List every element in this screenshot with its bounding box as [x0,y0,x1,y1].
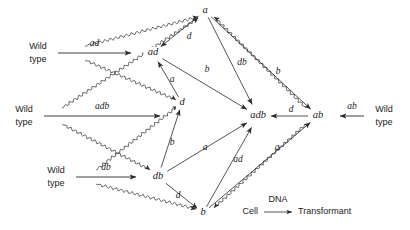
edge-label-db-adb: a [203,142,208,152]
legend-from-label: Cell [242,206,258,216]
wild-type-word1-src-adb: Wild [15,104,33,114]
edge-label-ab-adb: d [289,104,294,114]
wild-type-word2-src-db: type [47,178,64,188]
edge-a-to-ab [210,16,311,109]
wavy-dna-src-ad-out-down [85,60,176,100]
legend-arrow-label: DNA [268,194,287,204]
source-label-group: adWildtypeadbWildtypedbWildtypeabWildtyp… [15,38,393,188]
node-a: a [202,4,207,15]
wavy-dna-src-ad-out-up [85,17,198,46]
edge-b-to-adb [206,127,251,207]
edge-db-to-b [166,183,198,208]
wild-type-word1-src-ab: Wild [375,104,393,114]
edge-label-a-ad: d [187,31,192,41]
wild-type-word2-src-adb: type [15,117,32,127]
node-db: db [153,170,164,181]
source-donor-label-src-ad: ad [90,38,100,48]
wild-type-word2-src-ad: type [29,54,46,64]
wild-type-word1-src-db: Wild [47,165,65,175]
wavy-dna-src-adb-out-up [62,18,198,108]
node-d: d [179,96,185,107]
legend-to-label: Transformant [298,206,352,216]
edge-label-a-ab: b [276,66,281,76]
node-adb: adb [250,109,266,120]
edge-a-to-ad [161,15,200,46]
edge-label-db-b: d [176,190,181,200]
legend: Cell DNA Transformant [242,194,351,216]
edge-label-a-adb: db [237,57,247,67]
source-donor-label-src-adb: adb [95,101,110,111]
edge-label-db-d: b [170,137,175,147]
node-ad: ad [148,46,159,57]
source-donor-label-src-ab: ab [347,101,357,111]
wavy-dna-src-db-out-down [96,184,196,209]
source-donor-label-src-db: db [101,162,111,172]
wavy-dna-ab-wavy-down [214,124,306,208]
edge-d-to-ad [158,62,178,97]
edge-label-b-adb: ad [233,154,243,164]
diagram-canvas: ddbbbabadadad aaddadbdbbab adWildtypeadb… [0,0,410,230]
edge-label-b-ab: a [275,142,280,152]
wild-type-word2-src-ab: type [375,117,392,127]
edge-label-ad-adb: b [205,64,210,74]
node-ab: ab [313,109,324,120]
edge-label-d-ad: a [170,74,175,84]
wild-type-word1-src-ad: Wild [29,41,47,51]
node-b: b [200,206,205,217]
edge-b-to-ab [208,122,310,208]
transformation-diagram: ddbbbabadadad aaddadbdbbab adWildtypeadb… [0,0,410,230]
